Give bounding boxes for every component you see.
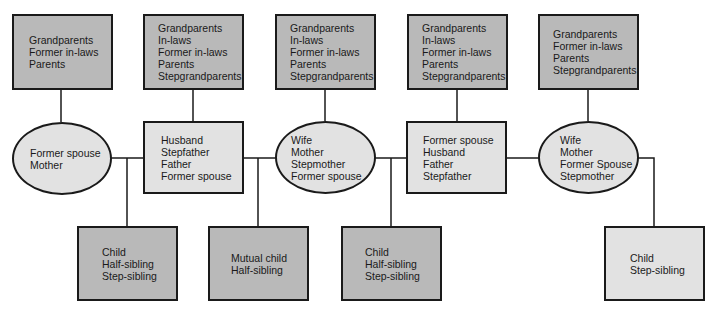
- relation-label: Stepfather: [161, 146, 232, 158]
- relation-label: Grandparents: [290, 22, 373, 34]
- relation-label: Stepgrandparents: [158, 70, 241, 82]
- relation-label: Father: [423, 158, 494, 170]
- relation-label: In-laws: [290, 34, 373, 46]
- relation-label: Grandparents: [29, 34, 98, 46]
- relation-label: Grandparents: [553, 28, 636, 40]
- extended-family-box: Grandparents Former in-laws Parents Step…: [538, 14, 639, 90]
- relation-label: Stepgrandparents: [422, 70, 505, 82]
- mutual-child-box: Mutual child Half-sibling: [208, 226, 309, 301]
- spouse-box-former-husband: Former spouse Husband Father Stepfather: [406, 121, 507, 194]
- relation-label: Step-sibling: [365, 270, 420, 282]
- relation-label: Former in-laws: [422, 46, 505, 58]
- relation-label: Wife: [291, 134, 362, 146]
- spouse-oval-wife: Wife Mother Stepmother Former spouse: [275, 121, 376, 194]
- relation-label: In-laws: [158, 34, 241, 46]
- relation-label: Mother: [30, 159, 101, 171]
- relation-label: Parents: [158, 58, 241, 70]
- relation-label: Former in-laws: [158, 46, 241, 58]
- relation-label: Wife: [560, 134, 632, 146]
- relation-label: Former in-laws: [553, 40, 636, 52]
- spouse-box-husband: Husband Stepfather Father Former spouse: [143, 121, 244, 194]
- relation-label: Parents: [290, 58, 373, 70]
- relation-label: Mutual child: [231, 252, 287, 264]
- relation-label: Father: [161, 158, 232, 170]
- extended-family-box: Grandparents In-laws Former in-laws Pare…: [275, 14, 376, 90]
- extended-family-box: Grandparents In-laws Former in-laws Pare…: [407, 14, 508, 90]
- extended-family-box: Grandparents In-laws Former in-laws Pare…: [143, 14, 244, 90]
- relation-label: Former spouse: [423, 134, 494, 146]
- marriage-line-5: [637, 158, 654, 226]
- relation-label: Half-sibling: [365, 258, 420, 270]
- relation-label: Former spouse: [291, 170, 362, 182]
- child-box: Child Half-sibling Step-sibling: [341, 226, 442, 301]
- relation-label: Stepmother: [291, 158, 362, 170]
- relation-label: Former in-laws: [29, 46, 98, 58]
- relation-label: Grandparents: [422, 22, 505, 34]
- relation-label: Grandparents: [158, 22, 241, 34]
- relation-label: Half-sibling: [231, 264, 287, 276]
- relation-label: Mother: [560, 146, 632, 158]
- relation-label: Half-sibling: [102, 258, 157, 270]
- relation-label: Former spouse: [161, 170, 232, 182]
- relation-label: Mother: [291, 146, 362, 158]
- relation-label: Stepfather: [423, 170, 494, 182]
- relation-label: Child: [102, 246, 157, 258]
- relation-label: Husband: [161, 134, 232, 146]
- child-box: Child Step-sibling: [604, 226, 705, 301]
- relation-label: Step-sibling: [630, 264, 685, 276]
- relation-label: Former spouse: [30, 147, 101, 159]
- relation-label: Parents: [422, 58, 505, 70]
- relation-label: Step-sibling: [102, 270, 157, 282]
- relation-label: Child: [365, 246, 420, 258]
- relation-label: In-laws: [422, 34, 505, 46]
- extended-family-box: Grandparents Former in-laws Parents: [12, 14, 113, 90]
- relation-label: Stepmother: [560, 170, 632, 182]
- spouse-oval-second-wife: Wife Mother Former Spouse Stepmother: [538, 121, 639, 194]
- relation-label: Child: [630, 252, 685, 264]
- relation-label: Former Spouse: [560, 158, 632, 170]
- relation-label: Former in-laws: [290, 46, 373, 58]
- relation-label: Husband: [423, 146, 494, 158]
- relation-label: Parents: [553, 52, 636, 64]
- spouse-oval-former-wife: Former spouse Mother: [12, 122, 112, 195]
- child-box: Child Half-sibling Step-sibling: [77, 226, 178, 301]
- relation-label: Parents: [29, 58, 98, 70]
- relation-label: Stepgrandparents: [553, 64, 636, 76]
- relation-label: Stepgrandparents: [290, 70, 373, 82]
